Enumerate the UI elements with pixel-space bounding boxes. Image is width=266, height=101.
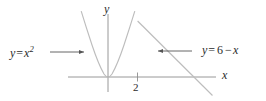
line-equation-label: y=6−x bbox=[202, 44, 238, 56]
line-minus: − bbox=[224, 43, 233, 57]
line-equals: = bbox=[207, 43, 216, 57]
line-constant: 6 bbox=[216, 43, 224, 57]
x-tick-label-2: 2 bbox=[133, 82, 139, 93]
line-variable: x bbox=[233, 43, 238, 57]
figure-canvas: y=x2 y=6−x y x 2 bbox=[0, 0, 266, 101]
parabola-exponent: 2 bbox=[29, 44, 33, 54]
y-axis-label: y bbox=[104, 3, 109, 15]
x-axis-label: x bbox=[222, 69, 227, 81]
parabola-equals: = bbox=[15, 46, 24, 60]
parabola-equation-label: y=x2 bbox=[10, 45, 34, 59]
line-curve bbox=[138, 21, 213, 96]
